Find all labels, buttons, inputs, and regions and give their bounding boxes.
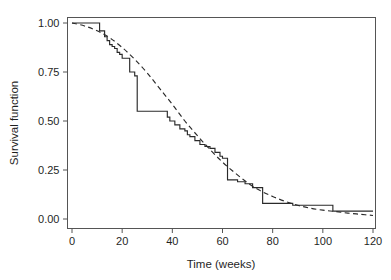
y-axis-tick-labels: 0.000.250.500.751.00 xyxy=(38,17,59,225)
y-axis-title: Survival function xyxy=(8,81,20,165)
x-tick-label: 80 xyxy=(267,235,279,247)
x-tick-label: 120 xyxy=(364,235,382,247)
x-axis-title: Time (weeks) xyxy=(187,258,256,270)
plot-frame xyxy=(68,18,376,229)
survival-function-figure: 020406080100120 0.000.250.500.751.00 Tim… xyxy=(0,0,391,280)
y-tick-label: 0.00 xyxy=(38,213,59,225)
x-tick-label: 20 xyxy=(116,235,128,247)
y-tick-label: 1.00 xyxy=(38,17,59,29)
y-tick-label: 0.50 xyxy=(38,115,59,127)
x-tick-label: 100 xyxy=(314,235,332,247)
kaplan-meier-step-curve xyxy=(72,23,373,211)
x-axis-ticks xyxy=(72,229,373,234)
y-axis-ticks xyxy=(63,23,68,219)
survival-plot-svg: 020406080100120 0.000.250.500.751.00 Tim… xyxy=(0,0,391,280)
x-tick-label: 60 xyxy=(216,235,228,247)
x-axis-tick-labels: 020406080100120 xyxy=(69,235,382,247)
x-tick-label: 40 xyxy=(166,235,178,247)
y-tick-label: 0.75 xyxy=(38,66,59,78)
y-tick-label: 0.25 xyxy=(38,164,59,176)
x-tick-label: 0 xyxy=(69,235,75,247)
